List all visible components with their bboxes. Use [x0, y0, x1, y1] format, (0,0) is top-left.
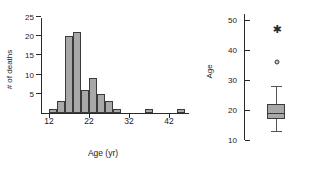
boxplot-lower-whisker: [276, 119, 277, 131]
boxplot-y-tick-label: 10: [228, 136, 237, 145]
histogram-y-tick-label: 10: [25, 70, 34, 79]
histogram-x-tick-label: 32: [124, 116, 133, 126]
histogram-x-axis-line: [41, 113, 189, 114]
histogram-x-axis-label: Age (yr): [58, 148, 148, 158]
boxplot-y-axis-label: Age: [203, 48, 215, 94]
histogram-y-tick: [36, 54, 41, 55]
histogram-bar: [89, 78, 97, 113]
histogram-bar: [177, 109, 185, 113]
histogram-bar: [81, 90, 89, 113]
boxplot-panel: Age 1020304050 ✱: [197, 0, 309, 179]
histogram-bar: [113, 109, 121, 113]
histogram-bar: [57, 101, 65, 113]
boxplot-y-axis-line: [244, 14, 245, 140]
boxplot-y-tick: [245, 20, 250, 21]
histogram-y-tick: [36, 35, 41, 36]
boxplot-box: [267, 104, 285, 119]
histogram-x-tick-label: 42: [164, 116, 173, 126]
boxplot-y-tick-label: 20: [228, 106, 237, 115]
histogram-y-tick: [36, 74, 41, 75]
histogram-y-tick-label: 20: [25, 32, 34, 41]
histogram-panel: # of deaths 510152025 12223242 Age (yr): [0, 0, 197, 179]
histogram-bar: [49, 109, 57, 113]
boxplot-lower-cap: [271, 131, 282, 132]
histogram-bar: [97, 94, 105, 113]
histogram-y-tick-label: 5: [30, 89, 34, 98]
boxplot-y-tick: [245, 80, 250, 81]
boxplot-plot-area: 1020304050 ✱: [244, 14, 306, 140]
histogram-bar: [145, 109, 153, 113]
boxplot-y-tick: [245, 140, 250, 141]
boxplot-y-tick-label: 40: [228, 46, 237, 55]
boxplot-upper-whisker: [276, 86, 277, 104]
boxplot-y-tick: [245, 50, 250, 51]
histogram-y-tick: [36, 93, 41, 94]
histogram-x-tick-label: 22: [84, 116, 93, 126]
boxplot-y-tick-label: 50: [228, 16, 237, 25]
histogram-y-tick-label: 15: [25, 51, 34, 60]
boxplot-upper-cap: [271, 86, 282, 87]
boxplot-y-tick-label: 30: [228, 76, 237, 85]
histogram-y-axis-line: [41, 18, 42, 114]
boxplot-y-tick: [245, 110, 250, 111]
histogram-bar: [65, 36, 73, 113]
histogram-x-tick-label: 12: [44, 116, 53, 126]
histogram-y-tick: [36, 16, 41, 17]
histogram-bar: [105, 101, 113, 113]
histogram-bar: [73, 32, 81, 113]
histogram-y-tick-label: 25: [25, 13, 34, 22]
boxplot-outlier-circle: [275, 60, 280, 65]
histogram-plot-area: 510152025 12223242: [41, 14, 189, 114]
boxplot-median-line: [267, 113, 285, 114]
histogram-y-axis-label: # of deaths: [4, 28, 16, 110]
